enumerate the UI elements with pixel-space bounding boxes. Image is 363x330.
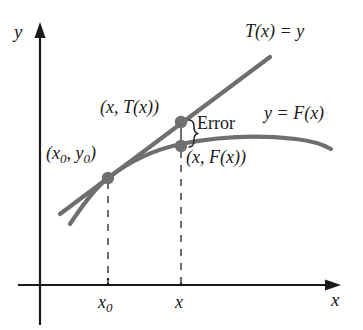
x-axis-label: x <box>331 290 339 309</box>
point-x-tx <box>175 116 187 128</box>
point-initial-label: (x0, y0) <box>46 144 96 166</box>
point-function-label: (x, F(x)) <box>186 148 246 166</box>
y-axis <box>35 22 46 325</box>
point-x0-y0 <box>102 172 114 184</box>
x-tick-label-x: x <box>175 293 183 311</box>
error-label: Error <box>197 114 235 132</box>
x-tick-label-x0: x0 <box>98 293 112 315</box>
function-curve-label: y = F(x) <box>264 104 324 122</box>
y-axis-label: y <box>14 22 22 41</box>
point-tangent-label: (x, T(x)) <box>100 98 159 116</box>
tangent-line-label: T(x) = y <box>245 22 304 40</box>
tangent-error-diagram: y x T(x) = y y = F(x) (x, T(x)) (x, F(x)… <box>0 0 363 330</box>
x-axis <box>18 280 341 291</box>
